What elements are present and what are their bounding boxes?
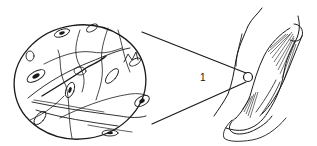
diagram: 1 (0, 0, 317, 146)
zoom-point-marker (244, 73, 253, 82)
arm-illustration (214, 8, 303, 141)
magnified-tissue-view (7, 16, 154, 146)
diagram-drawing (0, 0, 317, 146)
label-1: 1 (200, 73, 206, 83)
connector-lines (142, 32, 246, 124)
